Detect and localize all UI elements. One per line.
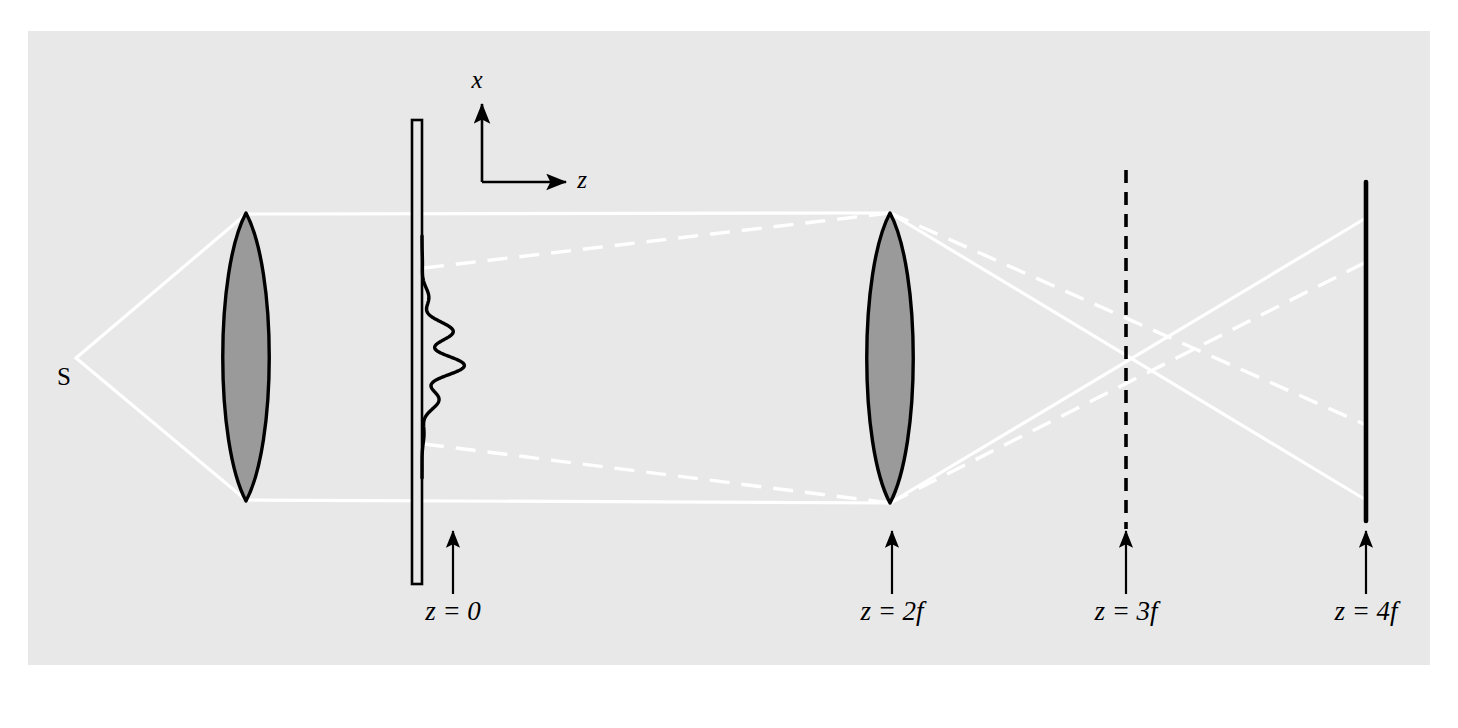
source-point-label: S [57, 363, 71, 390]
z-callout-label-0: z = 0 [424, 596, 481, 626]
grating-plane [412, 120, 422, 584]
z-callout-label-3: z = 4f [1333, 596, 1401, 626]
z-callout-label-1: z = 2f [859, 596, 927, 626]
figure-root: x z S z = 0z = 2fz = 3fz = 4f [0, 0, 1458, 728]
optics-diagram-svg: x z S z = 0z = 2fz = 3fz = 4f [0, 0, 1458, 728]
ray-collimated-top [246, 213, 890, 214]
z-callout-label-2: z = 3f [1093, 596, 1161, 626]
x-axis-label: x [470, 66, 482, 93]
z-axis-label: z [576, 166, 587, 193]
